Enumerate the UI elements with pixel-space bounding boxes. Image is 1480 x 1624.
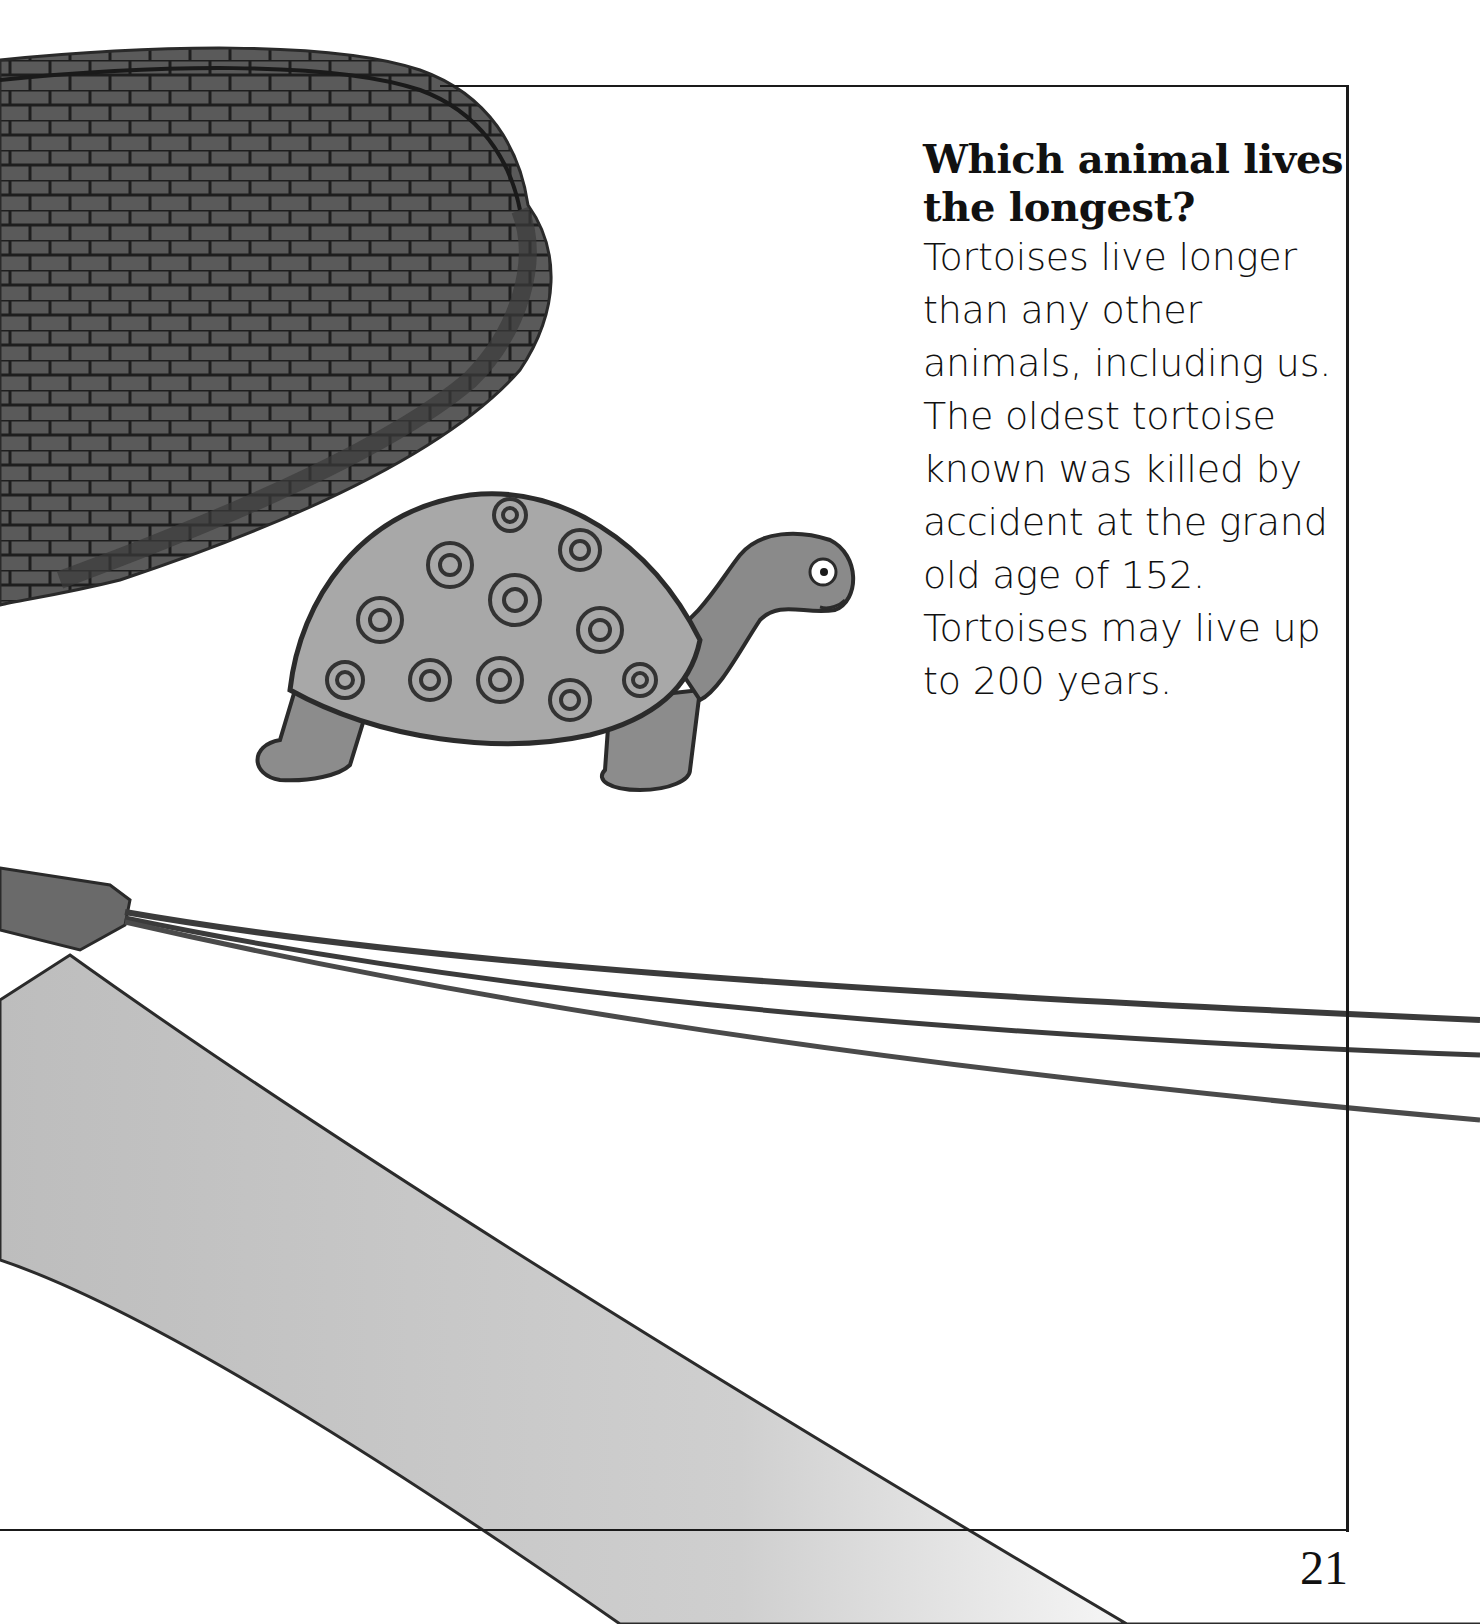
body-line: The oldest tortoise <box>923 390 1363 443</box>
heading-line-1: Which animal lives <box>923 135 1363 183</box>
page-number: 21 <box>1300 1540 1348 1595</box>
body-line: Tortoises live longer <box>923 231 1363 284</box>
body-line: Tortoises may live up <box>923 602 1363 655</box>
body-line: accident at the grand <box>923 496 1363 549</box>
tortoise-illustration <box>258 494 854 790</box>
heading-line-2: the longest? <box>923 183 1363 231</box>
body-line: animals, including us. <box>923 337 1363 390</box>
insect-leg-image <box>0 868 1480 1624</box>
body-line: old age of 152. <box>923 549 1363 602</box>
frame-top-border <box>440 85 1348 87</box>
body-line: known was killed by <box>923 443 1363 496</box>
frame-bottom-border <box>0 1529 1349 1531</box>
body-line: to 200 years. <box>923 655 1363 708</box>
body-line: than any other <box>923 284 1363 337</box>
fact-text-block: Which animal lives the longest? Tortoise… <box>923 135 1363 708</box>
